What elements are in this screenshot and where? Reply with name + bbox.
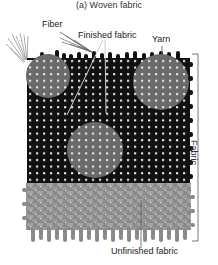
unfinished-fabric-region	[22, 183, 195, 230]
label-fiber: Fiber	[42, 19, 63, 29]
finished-fabric-region	[26, 54, 193, 184]
label-yarn: Yarn	[152, 34, 170, 44]
warp-ends-bottom	[31, 228, 187, 242]
label-finished-fabric: Finished fabric	[78, 30, 137, 40]
label-unfinished-fabric: Unfinished fabric	[111, 246, 178, 256]
label-fabric: Fabric	[189, 140, 199, 165]
fiber-tuft-left	[6, 33, 28, 63]
